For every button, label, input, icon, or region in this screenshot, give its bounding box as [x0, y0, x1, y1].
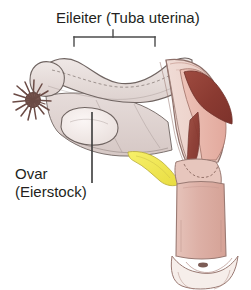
anatomical-figure: Eileiter (Tuba uterina) Ovar (Eierstock)	[0, 0, 251, 290]
anatomy-illustration	[0, 0, 251, 290]
ovary-label: Ovar (Eierstock)	[15, 165, 87, 201]
ovary-label-line-2: (Eierstock)	[15, 183, 87, 201]
vagina	[176, 182, 226, 259]
ovary-label-line-1: Ovar	[15, 165, 87, 183]
tube-label: Eileiter (Tuba uterina)	[56, 9, 200, 27]
round-ligament	[128, 151, 180, 185]
vaginal-fornix	[171, 256, 238, 289]
span-bracket	[74, 30, 155, 46]
